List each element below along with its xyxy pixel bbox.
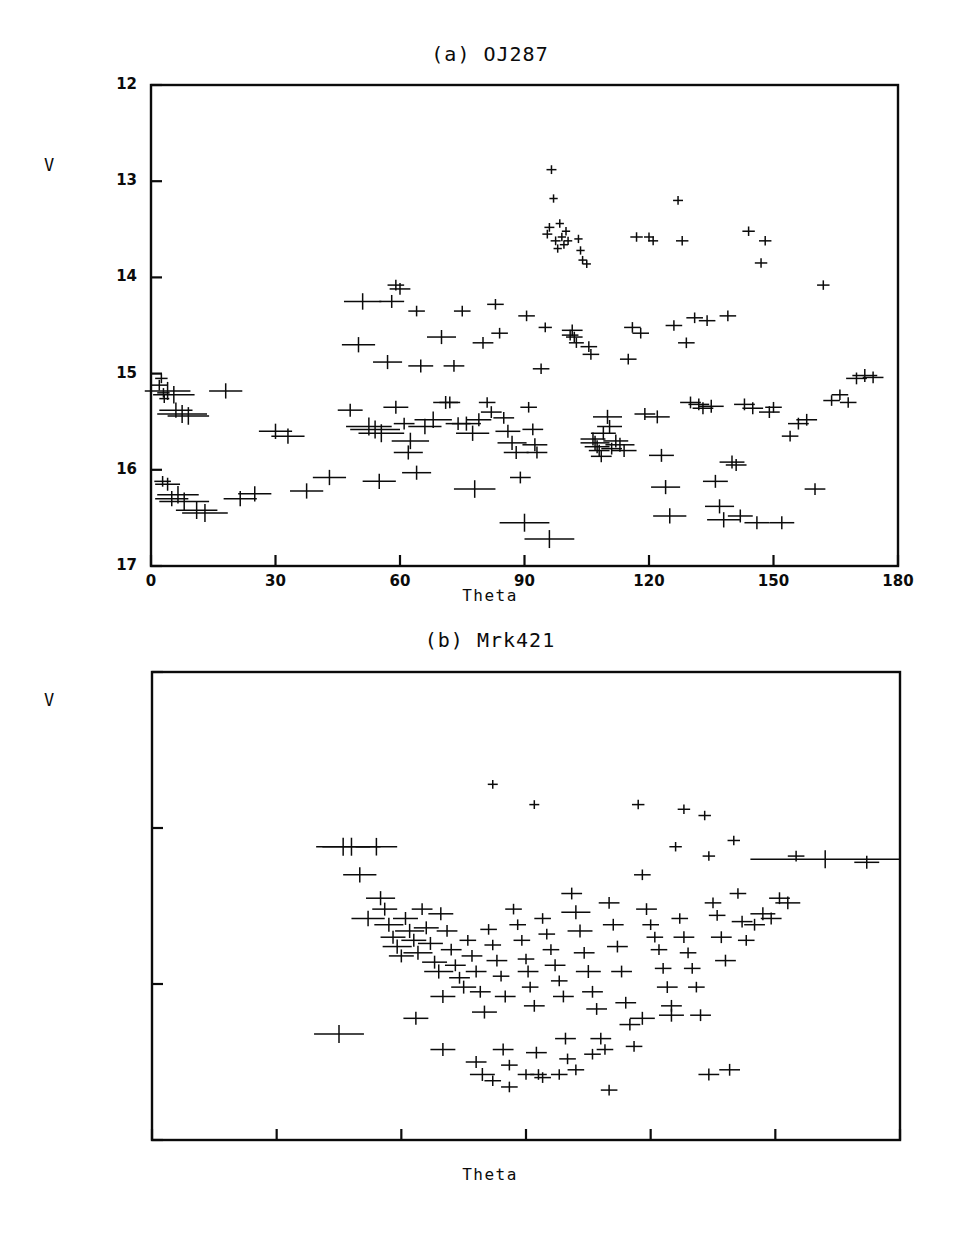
data-point bbox=[392, 433, 429, 449]
ytick-label: 15 bbox=[89, 364, 137, 382]
data-point bbox=[408, 359, 433, 372]
data-point bbox=[373, 355, 402, 369]
data-point bbox=[707, 512, 740, 527]
data-point bbox=[466, 966, 487, 978]
data-point bbox=[666, 320, 683, 331]
data-point bbox=[356, 838, 398, 856]
data-point bbox=[863, 372, 884, 384]
data-point bbox=[728, 836, 740, 845]
data-point bbox=[430, 1043, 455, 1056]
data-point bbox=[705, 898, 722, 909]
data-point bbox=[545, 959, 566, 971]
data-point bbox=[383, 401, 408, 414]
data-point bbox=[566, 332, 583, 343]
data-point bbox=[647, 932, 664, 943]
data-point bbox=[719, 1064, 740, 1076]
data-point bbox=[488, 780, 498, 789]
data-point bbox=[659, 1009, 684, 1022]
data-point bbox=[626, 1041, 643, 1052]
data-point bbox=[518, 954, 535, 965]
data-point bbox=[690, 1009, 711, 1021]
data-point bbox=[487, 299, 504, 310]
data-point bbox=[518, 311, 535, 322]
data-point bbox=[624, 322, 641, 333]
ytick-label: 16 bbox=[89, 460, 137, 478]
data-point bbox=[674, 931, 695, 943]
data-point bbox=[653, 508, 686, 523]
data-point bbox=[599, 897, 620, 909]
data-point bbox=[591, 450, 612, 462]
data-point bbox=[578, 256, 586, 264]
data-point bbox=[444, 360, 465, 372]
data-point bbox=[703, 475, 728, 488]
xtick-label: 180 bbox=[868, 572, 928, 590]
data-point bbox=[470, 1068, 495, 1081]
panel-a-plot bbox=[0, 0, 980, 610]
data-point bbox=[634, 408, 655, 420]
figure-root: (a) OJ287 V Theta 121314151617 030609012… bbox=[0, 0, 980, 1245]
data-point bbox=[759, 236, 771, 245]
data-point bbox=[498, 436, 527, 450]
data-point bbox=[673, 196, 683, 205]
data-point bbox=[522, 423, 543, 435]
xtick-label: 30 bbox=[246, 572, 306, 590]
xtick-label: 60 bbox=[370, 572, 430, 590]
data-point bbox=[176, 501, 218, 519]
data-point bbox=[529, 800, 539, 809]
xtick-label: 150 bbox=[744, 572, 804, 590]
data-point bbox=[445, 959, 466, 971]
data-point bbox=[441, 944, 462, 956]
data-point bbox=[584, 1049, 601, 1060]
data-point bbox=[720, 456, 745, 469]
data-point bbox=[581, 436, 610, 450]
data-point bbox=[832, 389, 849, 400]
data-point bbox=[642, 919, 659, 930]
data-point bbox=[678, 805, 690, 814]
data-point bbox=[583, 349, 600, 360]
data-point bbox=[501, 1082, 518, 1093]
data-point bbox=[414, 921, 439, 934]
data-point bbox=[154, 476, 171, 487]
xtick-label: 0 bbox=[121, 572, 181, 590]
data-point bbox=[657, 981, 678, 993]
data-point bbox=[374, 918, 403, 932]
data-point bbox=[460, 935, 477, 946]
data-point bbox=[597, 420, 622, 433]
data-point bbox=[593, 410, 622, 424]
data-point bbox=[372, 903, 397, 916]
data-point bbox=[415, 412, 452, 428]
data-point bbox=[351, 911, 384, 926]
data-point bbox=[726, 459, 747, 471]
data-point bbox=[462, 950, 483, 962]
data-point bbox=[422, 956, 447, 969]
ytick-label: 12 bbox=[89, 75, 137, 93]
data-point bbox=[560, 241, 568, 249]
data-point bbox=[466, 1056, 487, 1068]
data-point bbox=[389, 949, 414, 962]
data-point bbox=[699, 315, 716, 326]
data-point bbox=[634, 869, 651, 880]
data-point bbox=[607, 941, 628, 953]
data-point bbox=[157, 405, 207, 423]
data-point bbox=[151, 380, 168, 391]
data-point bbox=[155, 374, 167, 383]
data-point bbox=[553, 991, 574, 1003]
data-point bbox=[418, 937, 443, 950]
data-point bbox=[605, 438, 634, 452]
data-point bbox=[493, 1044, 514, 1056]
data-point bbox=[395, 924, 424, 938]
panel-oj287: (a) OJ287 V Theta 121314151617 030609012… bbox=[0, 0, 980, 610]
panel-b-xlabel: Theta bbox=[0, 1165, 980, 1184]
data-point bbox=[484, 940, 501, 951]
data-point bbox=[454, 306, 471, 317]
data-point bbox=[611, 966, 632, 978]
data-point bbox=[586, 1003, 607, 1015]
data-point bbox=[590, 1033, 611, 1045]
data-point bbox=[408, 306, 425, 317]
data-point bbox=[551, 236, 561, 245]
data-point bbox=[452, 417, 481, 431]
data-point bbox=[715, 955, 736, 967]
data-point bbox=[817, 280, 829, 289]
data-point bbox=[520, 402, 537, 413]
panel-b-title: (b) Mrk421 bbox=[0, 628, 980, 652]
